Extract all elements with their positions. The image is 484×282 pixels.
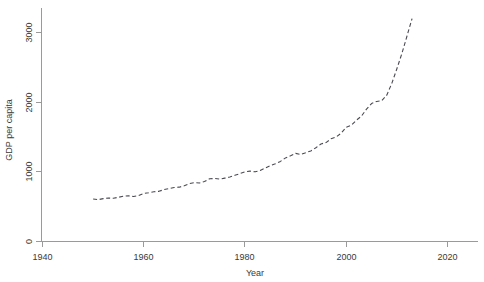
x-tick-label: 2020 <box>437 252 457 262</box>
x-tick-labels: 1940 1960 1980 2000 2020 <box>32 252 457 262</box>
x-tick-label: 2000 <box>336 252 356 262</box>
y-tick-label: 3000 <box>24 22 34 42</box>
line-chart: 3000 2000 1000 0 1940 1960 1980 2000 202… <box>0 0 484 282</box>
y-tick-labels: 3000 2000 1000 0 <box>24 22 34 244</box>
x-tick-label: 1960 <box>133 252 153 262</box>
y-tick-label: 0 <box>24 239 34 244</box>
y-tick-marks <box>36 33 42 242</box>
x-tick-label: 1940 <box>32 252 52 262</box>
x-tick-marks <box>43 242 448 248</box>
data-series-line <box>93 19 412 200</box>
y-axis-title: GDP per capita <box>4 99 14 160</box>
x-tick-label: 1980 <box>234 252 254 262</box>
y-tick-label: 1000 <box>24 161 34 181</box>
x-axis-title: Year <box>246 268 264 278</box>
chart-figure: 3000 2000 1000 0 1940 1960 1980 2000 202… <box>0 0 484 282</box>
y-tick-label: 2000 <box>24 92 34 112</box>
